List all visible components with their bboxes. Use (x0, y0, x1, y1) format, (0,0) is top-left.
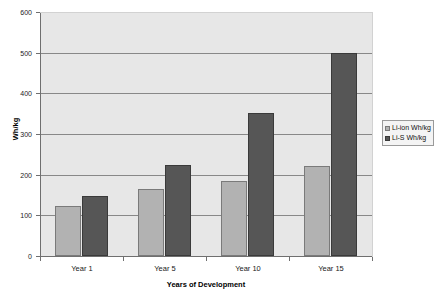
gridline (41, 93, 373, 94)
chart-title (0, 0, 443, 7)
legend-item[interactable]: Li-S Wh/kg (385, 133, 431, 143)
plot-frame-top (40, 12, 373, 13)
y-tick-mark (36, 215, 40, 216)
x-tick-mark (372, 257, 373, 261)
bar (165, 165, 191, 256)
legend-swatch-icon (385, 136, 390, 141)
y-tick-label: 100 (2, 212, 32, 219)
gridline (41, 134, 373, 135)
x-tick-label: Year 5 (130, 264, 200, 273)
x-tick-mark (206, 257, 207, 261)
y-tick-label: 200 (2, 172, 32, 179)
bar (221, 181, 247, 256)
x-tick-label: Year 10 (213, 264, 283, 273)
y-tick-mark (36, 12, 40, 13)
y-tick-mark (36, 175, 40, 176)
y-tick-label: 0 (2, 253, 32, 260)
y-tick-label: 600 (2, 9, 32, 16)
gridline (41, 53, 373, 54)
x-tick-mark (40, 257, 41, 261)
bar (138, 189, 164, 256)
bar-chart: 0100200300400500600 Wh/kg Year 1Year 5Ye… (0, 0, 443, 296)
legend-item[interactable]: Li-ion Wh/kg (385, 123, 431, 133)
legend-item-label: Li-ion Wh/kg (392, 124, 431, 132)
bar (331, 53, 357, 256)
x-tick-mark (123, 257, 124, 261)
legend-swatch-icon (385, 126, 390, 131)
x-tick-mark (289, 257, 290, 261)
y-tick-mark (36, 53, 40, 54)
y-tick-mark (36, 134, 40, 135)
x-axis-title: Years of Development (40, 280, 372, 289)
y-tick-mark (36, 93, 40, 94)
x-tick-label: Year 1 (47, 264, 117, 273)
bar (82, 196, 108, 256)
bar (304, 166, 330, 256)
bar (55, 206, 81, 256)
bar (248, 113, 274, 256)
plot-frame-right (372, 12, 373, 257)
legend: Li-ion Wh/kg Li-S Wh/kg (382, 120, 434, 146)
y-axis-title: Wh/kg (12, 99, 20, 159)
y-tick-label: 500 (2, 50, 32, 57)
y-tick-label: 400 (2, 90, 32, 97)
legend-item-label: Li-S Wh/kg (392, 134, 426, 142)
x-tick-label: Year 15 (296, 264, 366, 273)
